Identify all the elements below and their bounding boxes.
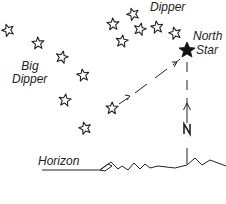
- horizon-label: Horizon: [38, 155, 79, 168]
- meridian-line: [184, 62, 191, 164]
- pointer-line: [119, 59, 180, 104]
- star-diagram: Dipper Big Dipper North Star Horizon: [0, 0, 226, 204]
- star-icon: [58, 93, 71, 106]
- star-icon: [55, 50, 69, 64]
- star-icon: [0, 22, 15, 37]
- little-dipper-label: Dipper: [150, 1, 185, 14]
- star-icon: [78, 121, 93, 135]
- big-dipper-label-line2: Dipper: [12, 73, 47, 86]
- north-star-label-line2: Star: [196, 44, 218, 57]
- north-star-icon: [179, 42, 195, 57]
- star-icon: [125, 6, 140, 21]
- star-icon: [107, 18, 120, 30]
- star-icon: [32, 37, 45, 49]
- star-icon: [76, 68, 90, 81]
- star-icon: [115, 34, 128, 47]
- north-star-label-line1: North: [193, 30, 222, 43]
- star-icon: [133, 22, 147, 36]
- star-icon: [106, 102, 118, 114]
- star-icon: [168, 26, 183, 40]
- star-icon: [150, 20, 164, 33]
